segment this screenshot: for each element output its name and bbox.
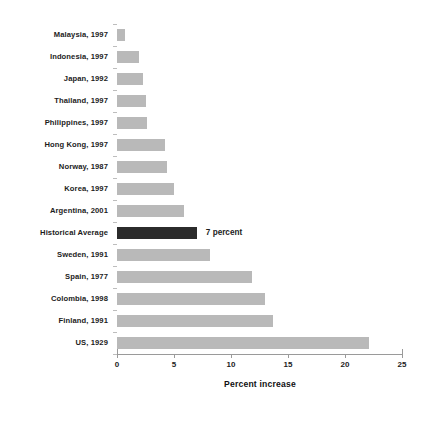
bar-highlighted <box>117 227 197 239</box>
x-axis-line <box>117 354 403 355</box>
bar-row: Colombia, 1998 <box>117 288 402 310</box>
category-label: Finland, 1991 <box>59 310 108 332</box>
x-tick-label: 5 <box>172 360 176 369</box>
bar <box>117 95 146 107</box>
bar <box>117 117 147 129</box>
bar <box>117 183 174 195</box>
bar-value-annotation: 7 percent <box>206 222 242 244</box>
bar <box>117 73 143 85</box>
bar-chart: 0510152025 Malaysia, 1997Indonesia, 1997… <box>0 0 428 421</box>
x-axis-title: Percent increase <box>117 379 403 389</box>
bar-row: Spain, 1977 <box>117 266 402 288</box>
x-tick <box>174 354 175 358</box>
x-tick-label: 20 <box>341 360 350 369</box>
bar <box>117 51 139 63</box>
x-tick-label: 15 <box>284 360 293 369</box>
category-label: Philippines, 1997 <box>45 112 108 134</box>
bar-row: Indonesia, 1997 <box>117 46 402 68</box>
bar <box>117 205 184 217</box>
bar-row: Sweden, 1991 <box>117 244 402 266</box>
category-label: US, 1929 <box>76 332 108 354</box>
bar-row: Japan, 1992 <box>117 68 402 90</box>
bar-row: Argentina, 2001 <box>117 200 402 222</box>
bar <box>117 139 165 151</box>
x-tick <box>231 354 232 358</box>
category-label: Argentina, 2001 <box>50 200 108 222</box>
x-tick-label: 25 <box>398 360 407 369</box>
category-label: Indonesia, 1997 <box>50 46 108 68</box>
bar-row: Finland, 1991 <box>117 310 402 332</box>
bar-row: Malaysia, 1997 <box>117 24 402 46</box>
bar <box>117 271 252 283</box>
bar <box>117 29 125 41</box>
category-label: Historical Average <box>40 222 108 244</box>
bar <box>117 249 210 261</box>
category-label: Korea, 1997 <box>64 178 108 200</box>
x-tick-label: 10 <box>227 360 236 369</box>
category-label: Japan, 1992 <box>64 68 108 90</box>
bar-row: Hong Kong, 1997 <box>117 134 402 156</box>
y-tick <box>113 354 117 355</box>
x-tick <box>345 354 346 358</box>
bar <box>117 315 273 327</box>
x-tick <box>288 354 289 358</box>
category-label: Spain, 1977 <box>65 266 108 288</box>
category-label: Sweden, 1991 <box>57 244 108 266</box>
bar <box>117 293 265 305</box>
bar-row: US, 1929 <box>117 332 402 354</box>
bar-row: Norway, 1987 <box>117 156 402 178</box>
bar <box>117 337 369 349</box>
x-tick-label: 0 <box>115 360 119 369</box>
x-tick <box>402 354 403 358</box>
category-label: Hong Kong, 1997 <box>44 134 108 156</box>
category-label: Malaysia, 1997 <box>54 24 108 46</box>
category-label: Norway, 1987 <box>59 156 108 178</box>
bar-row: Historical Average7 percent <box>117 222 402 244</box>
bar-row: Korea, 1997 <box>117 178 402 200</box>
x-tick <box>117 354 118 358</box>
bar-row: Philippines, 1997 <box>117 112 402 134</box>
category-label: Thailand, 1997 <box>54 90 108 112</box>
bar <box>117 161 167 173</box>
bar-row: Thailand, 1997 <box>117 90 402 112</box>
category-label: Colombia, 1998 <box>51 288 108 310</box>
